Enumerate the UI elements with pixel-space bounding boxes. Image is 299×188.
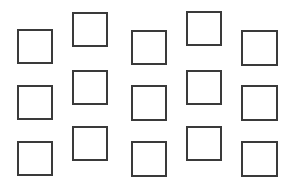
- square-r1c1: [17, 29, 53, 64]
- square-r2c2: [72, 70, 108, 105]
- square-r2c4: [186, 70, 222, 105]
- square-r3c3: [131, 141, 167, 177]
- square-r1c2: [72, 12, 108, 47]
- figure-canvas: [0, 0, 299, 188]
- square-r1c5: [241, 30, 278, 66]
- square-r3c5: [241, 141, 278, 177]
- square-r2c1: [17, 85, 53, 120]
- square-r1c3: [131, 30, 167, 65]
- square-r2c3: [131, 85, 167, 121]
- square-r3c1: [17, 141, 53, 176]
- square-r3c4: [186, 126, 222, 161]
- square-r1c4: [186, 11, 222, 46]
- square-r2c5: [241, 85, 278, 121]
- square-r3c2: [72, 126, 108, 161]
